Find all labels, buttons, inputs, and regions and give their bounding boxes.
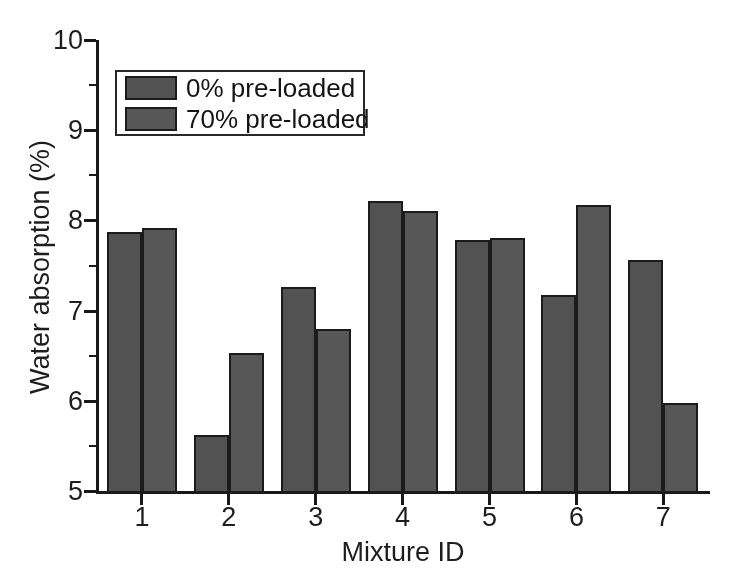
y-tick-label: 10 bbox=[33, 25, 83, 55]
x-tick-label: 3 bbox=[286, 502, 346, 532]
x-tick-label: 6 bbox=[546, 502, 606, 532]
y-axis-line bbox=[96, 40, 99, 494]
bar-mixture-5-series-1 bbox=[490, 238, 525, 493]
y-major-tick bbox=[84, 400, 96, 403]
x-tick-label: 4 bbox=[373, 502, 433, 532]
legend: 0% pre-loaded70% pre-loaded bbox=[115, 70, 365, 136]
x-axis-title: Mixture ID bbox=[253, 537, 553, 568]
legend-item-1: 70% pre-loaded bbox=[117, 103, 363, 134]
bar-mixture-2-series-0 bbox=[194, 435, 229, 493]
y-major-tick bbox=[84, 219, 96, 222]
bar-mixture-1-series-1 bbox=[142, 228, 177, 493]
y-tick-label: 5 bbox=[33, 476, 83, 506]
legend-label: 70% pre-loaded bbox=[186, 104, 370, 134]
bar-mixture-3-series-0 bbox=[281, 287, 316, 493]
bar-mixture-2-series-1 bbox=[229, 353, 264, 493]
bar-mixture-3-series-1 bbox=[316, 329, 351, 493]
bar-mixture-7-series-1 bbox=[663, 403, 698, 493]
x-tick-label: 1 bbox=[112, 502, 172, 532]
x-tick-label: 5 bbox=[460, 502, 520, 532]
legend-swatch-icon bbox=[125, 107, 177, 131]
y-major-tick bbox=[84, 310, 96, 313]
y-minor-tick bbox=[89, 84, 96, 86]
bar-mixture-1-series-0 bbox=[107, 232, 142, 493]
y-tick-label: 6 bbox=[33, 386, 83, 416]
legend-swatch-icon bbox=[125, 76, 177, 100]
y-major-tick bbox=[84, 129, 96, 132]
y-major-tick bbox=[84, 39, 96, 42]
y-major-tick bbox=[84, 490, 96, 493]
y-tick-label: 8 bbox=[33, 205, 83, 235]
y-tick-label: 7 bbox=[33, 296, 83, 326]
bar-mixture-7-series-0 bbox=[628, 260, 663, 493]
bar-mixture-6-series-1 bbox=[576, 205, 611, 493]
bar-mixture-4-series-1 bbox=[403, 211, 438, 493]
legend-item-0: 0% pre-loaded bbox=[117, 72, 363, 103]
y-tick-label: 9 bbox=[33, 115, 83, 145]
y-minor-tick bbox=[89, 265, 96, 267]
y-axis-title: Water absorption (%) bbox=[25, 122, 57, 412]
legend-label: 0% pre-loaded bbox=[186, 73, 355, 103]
bar-mixture-4-series-0 bbox=[368, 201, 403, 493]
bar-mixture-5-series-0 bbox=[455, 240, 490, 493]
bar-mixture-6-series-0 bbox=[541, 295, 576, 493]
bar-chart-figure: Water absorption (%) Mixture ID 0% pre-l… bbox=[0, 0, 730, 582]
y-minor-tick bbox=[89, 445, 96, 447]
y-minor-tick bbox=[89, 355, 96, 357]
x-tick-label: 7 bbox=[633, 502, 693, 532]
y-minor-tick bbox=[89, 174, 96, 176]
x-tick-label: 2 bbox=[199, 502, 259, 532]
